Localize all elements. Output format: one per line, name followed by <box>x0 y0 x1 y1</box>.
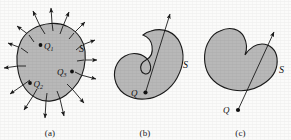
panel-c: Q S (c) <box>190 0 291 140</box>
gaussian-surface-a <box>17 23 85 101</box>
charge-dot <box>70 70 74 74</box>
gaussian-surface-c <box>205 29 278 91</box>
charge-dot <box>28 81 32 85</box>
panel-caption-c: (c) <box>190 128 291 138</box>
charge-dot <box>236 108 240 112</box>
charge-label: Q <box>131 88 138 98</box>
panel-caption-b: (b) <box>95 128 195 138</box>
panel-caption-a: (a) <box>0 128 100 138</box>
panel-c-drawing: Q S <box>190 0 291 126</box>
charge-label: Q <box>223 105 230 115</box>
panel-a: Q1 Q2 Q3 S (a) <box>0 0 100 140</box>
panel-b: Q S (b) <box>95 0 195 140</box>
charge-dot <box>143 90 147 94</box>
surface-label-s-b: S <box>183 59 188 70</box>
surface-label-s-c: S <box>279 64 284 75</box>
charge-q-c: Q <box>223 105 240 115</box>
gaussian-surface-b <box>114 30 182 99</box>
panel-b-drawing: Q S <box>95 0 195 126</box>
panel-a-drawing: Q1 Q2 Q3 S <box>0 0 100 126</box>
charge-dot <box>39 43 43 47</box>
gauss-law-figure: Q1 Q2 Q3 S (a) <box>0 0 291 140</box>
surface-label-s-a: S <box>79 43 84 54</box>
